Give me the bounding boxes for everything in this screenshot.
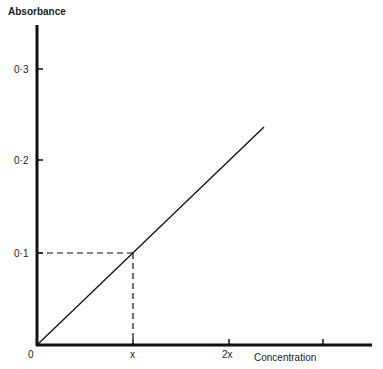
y-tick-label: 0·1 (14, 248, 29, 259)
x-axis-label: Concentration (254, 352, 316, 363)
data-line (37, 127, 264, 345)
x-tick-label: 2x (222, 349, 233, 360)
origin-label: 0 (28, 349, 34, 360)
y-axis-label: Absorbance (8, 6, 66, 17)
y-tick-label: 0·3 (14, 64, 29, 75)
x-tick-label: x (130, 349, 135, 360)
absorbance-chart: Absorbance 0·3 0·2 0·1 0 x 2x Concentrat… (0, 0, 383, 369)
y-tick-label: 0·2 (14, 155, 29, 166)
